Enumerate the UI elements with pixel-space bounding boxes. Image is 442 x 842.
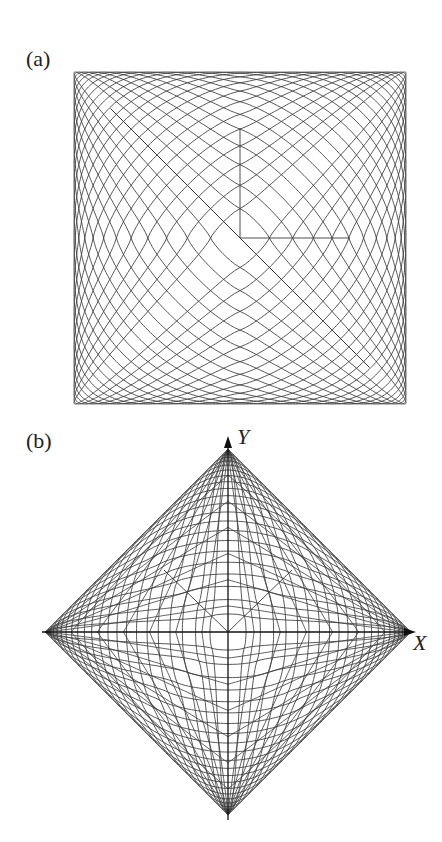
figure-canvas — [0, 0, 442, 842]
x-axis-arrow-icon — [404, 628, 416, 636]
y-axis-arrow-icon — [224, 436, 232, 448]
panel-a-curves — [74, 72, 406, 404]
